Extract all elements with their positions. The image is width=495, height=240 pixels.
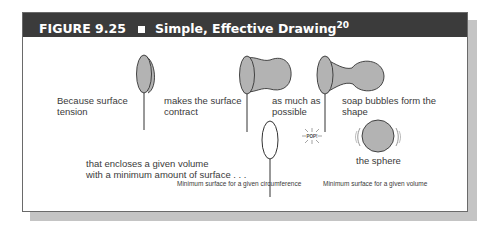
caption-circumference: Minimum surface for a given circumferenc… <box>177 180 301 187</box>
bubble-wand-stage-1 <box>137 55 155 130</box>
pop-burst-icon: POP! <box>302 128 322 144</box>
label-step-4: soap bubbles form theshape <box>342 95 436 117</box>
caption-volume: Minimum surface for a given volume <box>323 180 427 187</box>
label-step-3: as much aspossible <box>272 95 321 117</box>
svg-text:POP!: POP! <box>306 134 318 139</box>
label-step-2: makes the surfacecontract <box>164 95 242 117</box>
label-step-5: that encloses a given volumewith a minim… <box>86 158 247 180</box>
label-step-6: the sphere <box>356 155 401 166</box>
label-step-1: Because surfacetension <box>57 95 128 117</box>
sphere-bubble <box>356 120 401 152</box>
bubble-wand-stage-2 <box>240 56 292 132</box>
